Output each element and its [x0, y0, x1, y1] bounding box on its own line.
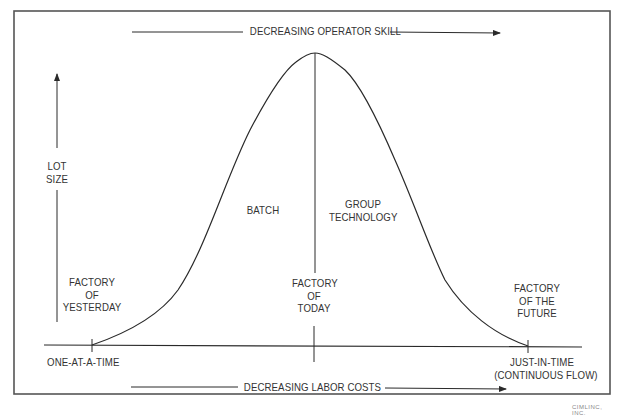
- operator-skill-arrow-right: [390, 32, 500, 33]
- x-axis-baseline: [44, 345, 582, 347]
- group-technology-label: GROUP TECHNOLOGY: [329, 198, 397, 223]
- labor-costs-label: DECREASING LABOR COSTS: [244, 381, 378, 394]
- factory-of-yesterday-label: FACTORY OF YESTERDAY: [63, 276, 122, 314]
- diagram-border: [14, 11, 610, 394]
- batch-label: BATCH: [245, 204, 282, 217]
- one-at-a-time-label: ONE-AT-A-TIME: [47, 356, 117, 369]
- operator-skill-label: DECREASING OPERATOR SKILL: [250, 25, 384, 38]
- factory-of-the-future-label: FACTORY OF THE FUTURE: [514, 282, 560, 320]
- factory-of-today-label: FACTORY OF TODAY: [292, 277, 336, 315]
- lot-size-label: LOT SIZE: [44, 160, 70, 185]
- credit-text: CIMLINC, INC.: [572, 404, 617, 416]
- labor-costs-arrow-right: [385, 388, 506, 389]
- just-in-time-label: JUST-IN-TIME (CONTINUOUS FLOW): [494, 356, 590, 381]
